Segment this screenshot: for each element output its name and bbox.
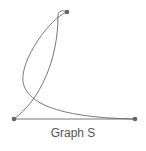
graph-caption: Graph S (0, 126, 146, 140)
node-top (65, 10, 70, 15)
node-bottom-left (12, 117, 17, 122)
edge-top-bottom-right (23, 12, 135, 119)
node-bottom-right (133, 117, 138, 122)
